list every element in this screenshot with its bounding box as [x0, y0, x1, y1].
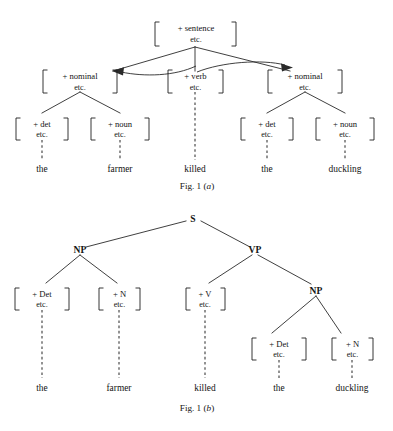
node-b-n-object: + N etc.	[332, 338, 373, 360]
bracket-left	[16, 118, 20, 140]
node-a-det-right-line2: etc.	[261, 130, 273, 139]
bracket-left	[268, 70, 272, 93]
node-a-verb-line2: etc.	[190, 83, 202, 92]
node-a-noun-left: + noun etc.	[91, 118, 149, 140]
caption-b-prefix: Fig. 1 (	[180, 403, 207, 413]
node-b-n-subject: + N etc.	[99, 288, 140, 310]
bracket-left	[316, 118, 320, 140]
terminal-word: the	[261, 164, 272, 174]
panel-b: S NP VP NP + Det etc. + N etc.	[15, 213, 373, 413]
caption-panel-a: Fig. 1 (a)	[180, 181, 214, 191]
node-a-noun-left-line2: etc.	[114, 130, 126, 139]
branch-s-to-np-subject	[86, 221, 186, 247]
bracket-right	[232, 22, 236, 46]
caption-a-suffix: )	[211, 181, 214, 191]
node-a-verb-line1: + verb	[184, 71, 206, 81]
node-a-noun-left-line1: + noun	[108, 119, 133, 129]
bracket-right	[145, 118, 149, 140]
node-b-s: S	[190, 213, 195, 224]
node-a-noun-right: + noun etc.	[316, 118, 374, 140]
bracket-right	[289, 118, 293, 140]
node-b-n-object-line1: + N	[346, 339, 360, 349]
terminal-word: duckling	[329, 164, 362, 174]
bracket-left	[241, 118, 245, 140]
node-a-det-left-line2: etc.	[36, 130, 48, 139]
panel-a-dashed-links	[42, 92, 345, 160]
branch-nominal-left-to-det	[42, 92, 80, 113]
node-a-nominal-right: + nominal etc.	[268, 70, 342, 93]
bracket-right	[65, 288, 69, 310]
node-a-det-right: + det etc.	[241, 118, 293, 140]
terminal-word: the	[273, 383, 284, 393]
terminal-word: killed	[184, 164, 206, 174]
branch-root-to-nominal-left	[113, 47, 195, 71]
bracket-right	[302, 338, 306, 360]
node-b-n-object-line2: etc.	[347, 350, 359, 359]
bracket-right	[136, 288, 140, 310]
caption-b-suffix: )	[211, 403, 214, 413]
node-a-nominal-right-line2: etc.	[299, 83, 311, 92]
branch-nominal-right-to-det	[267, 92, 305, 113]
node-b-v-line1: + V	[198, 289, 212, 299]
branch-np-object-to-det	[272, 296, 316, 333]
terminal-word: farmer	[108, 164, 134, 174]
node-a-nominal-right-line1: + nominal	[287, 71, 323, 81]
node-b-det-subject: + Det etc.	[15, 288, 69, 310]
terminal-word: farmer	[107, 383, 133, 393]
branch-nominal-right-to-noun	[305, 92, 345, 113]
terminal-word: duckling	[336, 383, 369, 393]
node-a-root: + sentence etc.	[155, 22, 236, 46]
bracket-right	[219, 70, 223, 93]
bracket-left	[252, 338, 256, 360]
node-b-np-object: NP	[310, 285, 323, 296]
bracket-right	[64, 118, 68, 140]
bracket-left	[43, 70, 47, 93]
caption-panel-b: Fig. 1 (b)	[180, 403, 214, 413]
panel-b-terminals: the farmer killed the duckling	[36, 383, 368, 393]
node-a-root-line1: + sentence	[178, 23, 215, 33]
node-b-np-subject: NP	[74, 244, 87, 255]
node-a-det-right-line1: + det	[258, 119, 276, 129]
panel-a-terminals: the farmer killed the duckling	[36, 164, 361, 174]
branch-np-subject-to-det	[46, 255, 80, 283]
branch-root-to-nominal-right	[195, 47, 290, 71]
node-a-verb: + verb etc.	[168, 70, 223, 93]
node-a-det-left: + det etc.	[16, 118, 68, 140]
panel-b-dashed-links	[42, 310, 352, 378]
branch-np-subject-to-n	[80, 255, 117, 283]
node-b-vp: VP	[249, 244, 262, 255]
node-b-v: + V etc.	[186, 288, 225, 310]
node-b-det-object-line2: etc.	[273, 350, 285, 359]
branch-np-object-to-n	[316, 296, 341, 333]
terminal-word: the	[36, 383, 47, 393]
node-b-det-subject-line2: etc.	[36, 300, 48, 309]
syntax-tree-figure: + sentence etc. + nominal etc. + verb et…	[0, 0, 393, 431]
terminal-word: the	[36, 164, 47, 174]
arrowhead-left-icon	[112, 67, 124, 75]
node-b-det-object-line1: + Det	[269, 339, 289, 349]
bracket-right	[113, 70, 117, 93]
panel-a: + sentence etc. + nominal etc. + verb et…	[16, 22, 374, 191]
branch-vp-to-np-object	[258, 255, 311, 284]
node-a-noun-right-line1: + noun	[333, 119, 358, 129]
node-a-det-left-line1: + det	[33, 119, 51, 129]
bracket-left	[332, 338, 336, 360]
branch-vp-to-v	[209, 255, 252, 283]
bracket-left	[99, 288, 103, 310]
node-a-root-line2: etc.	[190, 35, 202, 44]
bracket-right	[370, 118, 374, 140]
bracket-right	[221, 288, 225, 310]
terminal-word: killed	[194, 383, 216, 393]
movement-arc-right	[197, 62, 285, 72]
bracket-right	[369, 338, 373, 360]
branch-nominal-left-to-noun	[80, 92, 120, 113]
panel-b-branches	[46, 221, 341, 333]
node-a-noun-right-line2: etc.	[339, 130, 351, 139]
node-a-nominal-left: + nominal etc.	[43, 70, 117, 93]
node-b-det-subject-line1: + Det	[32, 289, 52, 299]
node-b-v-line2: etc.	[199, 300, 211, 309]
node-b-n-subject-line1: + N	[113, 289, 127, 299]
bracket-left	[91, 118, 95, 140]
node-b-n-subject-line2: etc.	[114, 300, 126, 309]
bracket-left	[186, 288, 190, 310]
